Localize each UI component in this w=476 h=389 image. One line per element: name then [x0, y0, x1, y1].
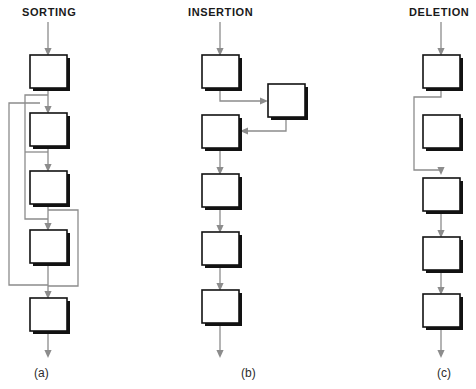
sorting-column-title: SORTING	[22, 6, 76, 18]
sorting-box-1	[30, 55, 67, 88]
deletion-box-1	[423, 55, 460, 88]
insertion-box-3	[202, 174, 239, 207]
sorting-column-caption: (a)	[34, 366, 49, 380]
insertion-side-box	[268, 84, 305, 117]
flowchart-canvas	[0, 0, 476, 389]
insertion-box-1	[202, 55, 239, 88]
deletion-box-4	[423, 237, 460, 270]
sorting-box-3	[30, 171, 67, 204]
sorting-box-4	[30, 230, 67, 263]
insertion-box-5	[202, 290, 239, 323]
insertion-box-4	[202, 232, 239, 265]
deletion-column-caption: (c)	[437, 366, 451, 380]
deletion-box-3	[423, 178, 460, 211]
sorting-box-2	[30, 113, 67, 146]
deletion-box-2-bypassed	[423, 115, 460, 148]
insertion-column-caption: (b)	[241, 366, 256, 380]
insertion-box-2	[202, 115, 239, 148]
deletion-box-5	[423, 294, 460, 327]
deletion-column-title: DELETION	[409, 6, 469, 18]
sorting-box-5	[30, 298, 67, 331]
insertion-column-title: INSERTION	[188, 6, 253, 18]
flowchart-diagram: SORTING INSERTION DELETION (a) (b) (c)	[0, 0, 476, 389]
